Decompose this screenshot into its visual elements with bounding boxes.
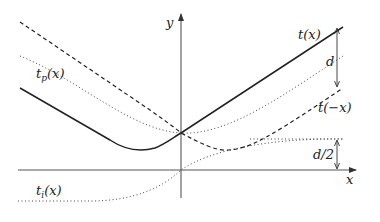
label-t-p: tp(x) (36, 66, 64, 83)
label-t: t(x) (298, 27, 321, 42)
label-half-d: d/2 (313, 147, 334, 162)
diagram-canvas: y x t(x) t(−x) tp(x) ti(x) d d/2 (0, 0, 380, 222)
y-axis-label: y (165, 15, 174, 30)
label-t-neg-x: t(−x) (318, 100, 352, 115)
label-d: d (326, 54, 334, 69)
x-axis-label: x (346, 172, 354, 187)
label-t-i: ti(x) (36, 183, 62, 200)
